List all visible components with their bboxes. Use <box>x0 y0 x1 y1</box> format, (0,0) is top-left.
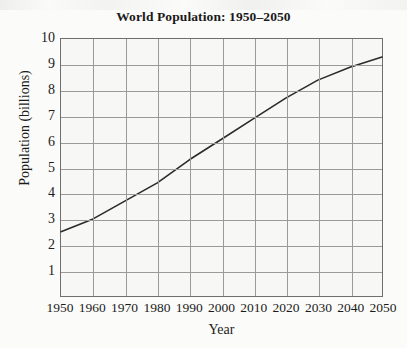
gridline-horizontal <box>61 65 382 66</box>
y-axis-tick-labels: 12345678910 <box>0 38 55 297</box>
y-tick-label: 1 <box>3 263 55 279</box>
gridline-horizontal <box>61 272 382 273</box>
gridline-vertical <box>126 39 127 296</box>
y-tick-label: 5 <box>3 160 55 176</box>
y-tick-label: 3 <box>3 211 55 227</box>
data-series-line <box>61 39 382 296</box>
gridline-vertical <box>319 39 320 296</box>
gridline-horizontal <box>61 143 382 144</box>
y-tick-label: 6 <box>3 134 55 150</box>
population-curve <box>61 57 382 232</box>
chart-page: World Population: 1950–2050 Population (… <box>0 0 407 348</box>
gridline-horizontal <box>61 194 382 195</box>
gridline-vertical <box>287 39 288 296</box>
gridline-horizontal <box>61 117 382 118</box>
y-tick-label: 8 <box>3 82 55 98</box>
gridline-vertical <box>93 39 94 296</box>
gridline-horizontal <box>61 169 382 170</box>
chart-title: World Population: 1950–2050 <box>0 9 407 25</box>
y-tick-label: 4 <box>3 185 55 201</box>
y-tick-label: 7 <box>3 108 55 124</box>
y-tick-label: 2 <box>3 237 55 253</box>
x-axis-tick-labels: 1950196019701980199020002010202020302040… <box>60 300 383 320</box>
gridline-vertical <box>352 39 353 296</box>
gridline-vertical <box>223 39 224 296</box>
gridline-horizontal <box>61 246 382 247</box>
gridline-vertical <box>190 39 191 296</box>
gridline-vertical <box>158 39 159 296</box>
x-axis-title: Year <box>60 322 383 338</box>
gridline-horizontal <box>61 220 382 221</box>
x-tick-label: 2050 <box>360 300 406 316</box>
gridline-horizontal <box>61 91 382 92</box>
plot-area <box>60 38 383 297</box>
gridline-vertical <box>255 39 256 296</box>
y-tick-label: 10 <box>3 30 55 46</box>
y-tick-label: 9 <box>3 56 55 72</box>
